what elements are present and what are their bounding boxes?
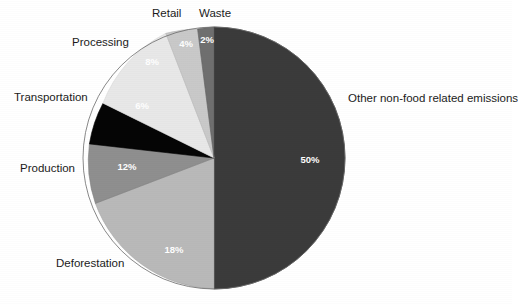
pie-value-deforestation: 18%	[164, 244, 184, 255]
pie-label-production: Production	[20, 162, 75, 175]
pie-label-transportation: Transportation	[14, 91, 88, 104]
pie-value-other: 50%	[300, 154, 320, 165]
pie-label-waste: Waste	[199, 7, 231, 20]
pie-value-waste: 2%	[200, 34, 214, 45]
pie-value-retail: 4%	[179, 38, 193, 49]
pie-slice-other[interactable]	[214, 27, 345, 289]
pie-value-processing: 8%	[145, 56, 159, 67]
pie-value-transportation: 6%	[135, 100, 149, 111]
pie-label-other: Other non-food related emissions	[348, 92, 518, 105]
pie-label-deforestation: Deforestation	[56, 257, 124, 270]
pie-value-production: 12%	[117, 161, 137, 172]
pie-label-retail: Retail	[152, 7, 181, 20]
pie-label-processing: Processing	[72, 36, 129, 49]
